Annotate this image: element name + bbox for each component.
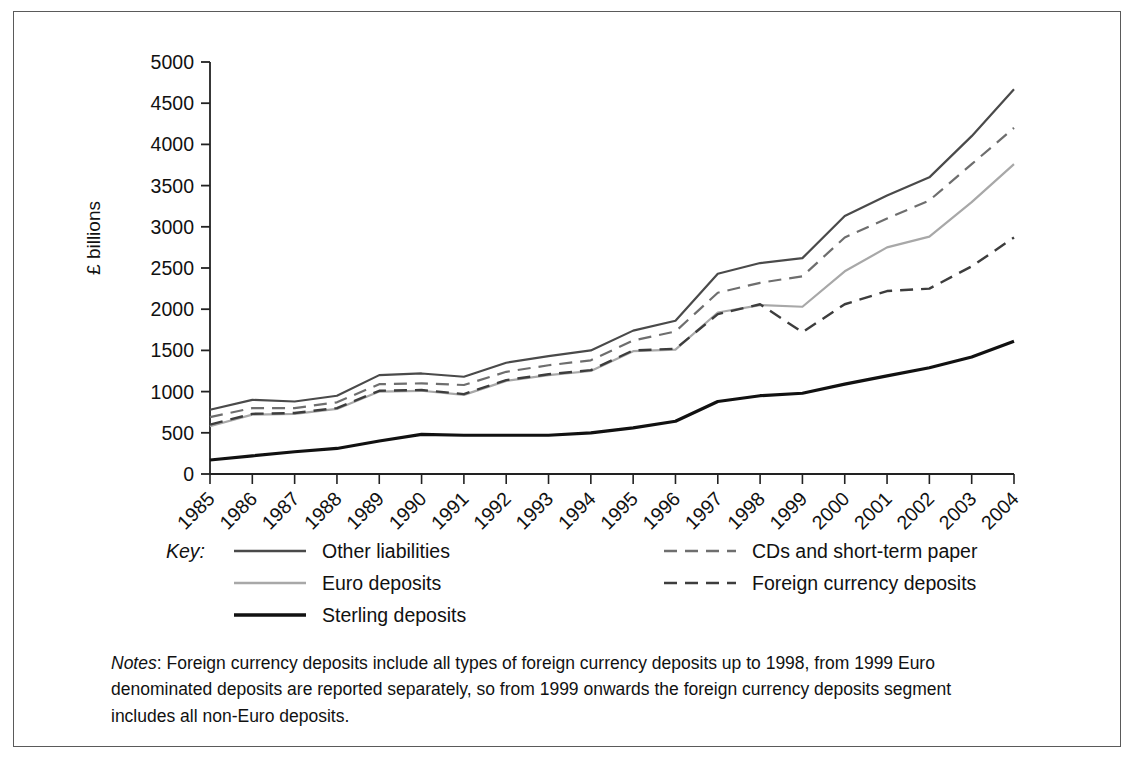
legend-swatch-solid-line-icon xyxy=(232,608,308,622)
x-axis-tick-label: 1999 xyxy=(765,487,811,532)
legend-swatch-dashed-line-icon xyxy=(662,544,738,558)
x-axis-tick-label: 1988 xyxy=(300,487,346,532)
y-axis-tick-label: 3000 xyxy=(151,216,195,238)
x-axis-tick-label: 1986 xyxy=(215,487,261,532)
x-axis-tick-label: 1992 xyxy=(469,487,515,532)
series-line-4 xyxy=(210,341,1014,460)
x-axis-tick-label: 1990 xyxy=(384,487,430,532)
x-axis-tick-label: 1985 xyxy=(173,487,219,532)
x-axis-tick-label: 1996 xyxy=(638,487,684,532)
x-axis-tick-label: 1997 xyxy=(680,487,726,532)
x-axis-tick-label: 1995 xyxy=(596,487,642,532)
notes-lead-label: Notes xyxy=(111,653,157,673)
legend-item-label: Other liabilities xyxy=(322,540,450,563)
x-axis-tick-label: 1987 xyxy=(257,487,303,532)
y-axis-tick-label: 0 xyxy=(183,463,194,485)
y-axis-tick-label: 4500 xyxy=(151,92,195,114)
x-axis-tick-label: 2000 xyxy=(807,487,853,532)
y-axis-tick-label: 4000 xyxy=(151,133,195,155)
line-chart: 0500100015002000250030003500400045005000… xyxy=(14,12,1122,532)
legend-item-label: Euro deposits xyxy=(322,572,441,595)
x-axis-tick-label: 1991 xyxy=(426,487,472,532)
x-axis-tick-label: 2004 xyxy=(977,487,1023,532)
legend-item: CDs and short-term paper xyxy=(662,536,977,566)
x-axis-tick-label: 1994 xyxy=(553,487,599,532)
figure-frame: 0500100015002000250030003500400045005000… xyxy=(13,11,1121,747)
x-axis-tick-label: 2002 xyxy=(892,487,938,532)
legend-item: Foreign currency deposits xyxy=(662,568,976,598)
legend-item-label: Foreign currency deposits xyxy=(752,572,976,595)
x-axis-tick-label: 1998 xyxy=(723,487,769,532)
chart-plot-area: 0500100015002000250030003500400045005000… xyxy=(14,12,1122,532)
y-axis-tick-label: 5000 xyxy=(151,51,195,73)
y-axis-tick-label: 1500 xyxy=(151,339,195,361)
legend-swatch-dashed-line-icon xyxy=(662,576,738,590)
notes-separator: : xyxy=(157,653,167,673)
chart-notes: Notes: Foreign currency deposits include… xyxy=(111,650,1016,729)
y-axis-title: £ billions xyxy=(83,201,104,275)
legend-swatch-solid-line-icon xyxy=(232,544,308,558)
y-axis-tick-label: 500 xyxy=(161,422,194,444)
x-axis-tick-label: 2001 xyxy=(850,487,896,532)
notes-text: Foreign currency deposits include all ty… xyxy=(111,653,951,726)
legend-item: Euro deposits xyxy=(232,568,441,598)
legend-item-label: CDs and short-term paper xyxy=(752,540,977,563)
legend-item: Sterling deposits xyxy=(232,600,466,630)
x-axis-tick-label: 1993 xyxy=(511,487,557,532)
legend-item: Other liabilities xyxy=(232,536,450,566)
legend-title: Key: xyxy=(166,540,205,563)
legend-item-label: Sterling deposits xyxy=(322,604,466,627)
y-axis-tick-label: 3500 xyxy=(151,175,195,197)
series-line-2 xyxy=(210,164,1014,426)
chart-legend: Key: Other liabilitiesEuro depositsSterl… xyxy=(14,532,1122,644)
y-axis-tick-label: 1000 xyxy=(151,381,195,403)
x-axis-tick-label: 1989 xyxy=(342,487,388,532)
y-axis-tick-label: 2500 xyxy=(151,257,195,279)
y-axis-tick-label: 2000 xyxy=(151,298,195,320)
legend-swatch-solid-line-icon xyxy=(232,576,308,590)
x-axis-tick-label: 2003 xyxy=(934,487,980,532)
